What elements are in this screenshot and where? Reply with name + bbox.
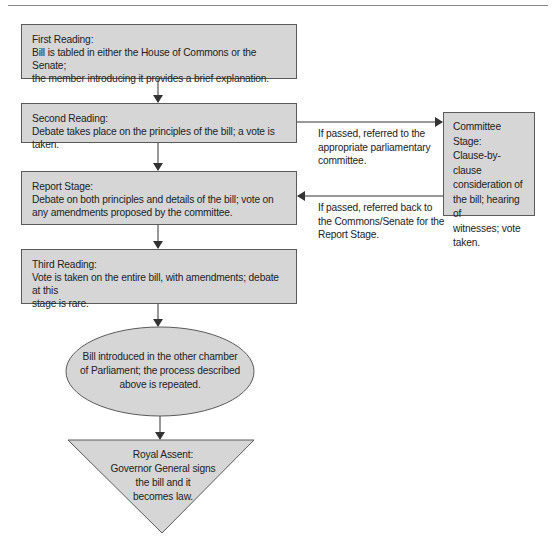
node-text-line: Clause-by-clause	[453, 149, 528, 178]
node-text-line: Governor General signs	[93, 462, 233, 476]
node-text-line: consideration of	[453, 178, 528, 193]
top-rule	[8, 5, 548, 6]
node-text-line: above is repeated.	[72, 378, 248, 392]
node-title: First Reading:	[32, 33, 286, 46]
node-text-line: Debate on both principles and details of…	[32, 193, 286, 206]
node-text-line: Bill introduced in the other chamber	[72, 350, 248, 364]
edge-label-line: If passed, referred to the	[318, 127, 430, 141]
edge-label-back-to-report: If passed, referred back to the Commons/…	[318, 201, 444, 242]
edge-label-line: the Commons/Senate for the	[318, 215, 444, 229]
node-text-line: of Parliament; the process described	[72, 364, 248, 378]
node-text-line: the bill and it	[93, 476, 233, 490]
edge-label-line: committee.	[318, 154, 430, 168]
node-text-line: witnesses; vote	[453, 222, 528, 237]
edge-label-line: appropriate parliamentary	[318, 141, 430, 155]
node-first-reading: First Reading: Bill is tabled in either …	[21, 24, 297, 79]
edge-label-line: If passed, referred back to	[318, 201, 444, 215]
node-other-chamber: Bill introduced in the other chamber of …	[72, 350, 248, 392]
node-third-reading: Third Reading: Vote is taken on the enti…	[21, 249, 297, 304]
edge-label-to-committee: If passed, referred to the appropriate p…	[318, 127, 430, 168]
node-second-reading: Second Reading: Debate takes place on th…	[21, 103, 297, 143]
node-text-line: Debate takes place on the principles of …	[32, 125, 286, 151]
edge-label-line: Report Stage.	[318, 228, 444, 242]
node-title: Second Reading:	[32, 112, 286, 125]
node-text-line: stage is rare.	[32, 297, 286, 310]
node-text-line: Royal Assent:	[93, 448, 233, 462]
node-title: Third Reading:	[32, 258, 286, 271]
node-text-line: Committee Stage:	[453, 120, 528, 149]
node-report-stage: Report Stage: Debate on both principles …	[21, 171, 297, 225]
node-text-line: the member introducing it provides a bri…	[32, 72, 286, 85]
node-title: Report Stage:	[32, 180, 286, 193]
node-text-line: taken.	[453, 236, 528, 251]
node-text-line: Bill is tabled in either the House of Co…	[32, 46, 286, 72]
node-text-line: any amendments proposed by the committee…	[32, 206, 286, 219]
node-committee-stage: Committee Stage: Clause-by-clause consid…	[443, 112, 535, 216]
node-text-line: the bill; hearing of	[453, 193, 528, 222]
node-text-line: Vote is taken on the entire bill, with a…	[32, 271, 286, 297]
node-royal-assent: Royal Assent: Governor General signs the…	[93, 448, 233, 504]
node-text-line: becomes law.	[93, 490, 233, 504]
